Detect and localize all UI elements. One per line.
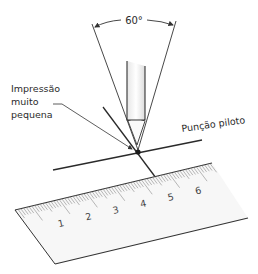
impression-label-line-1: Impressão	[11, 83, 60, 94]
impression-dot	[135, 149, 140, 154]
impression-leader	[53, 104, 132, 149]
angle-arc-left	[95, 20, 121, 27]
pilot-punch	[127, 61, 145, 145]
ruler-body	[15, 163, 248, 264]
impression-label-line-3: pequena	[11, 109, 53, 120]
angle-label: 60°	[125, 15, 143, 26]
punch-label: Punção piloto	[181, 114, 246, 134]
angle-arc-right	[147, 20, 173, 25]
ruler: 123456	[15, 163, 248, 264]
impression-label-line-2: muito	[11, 96, 39, 107]
punch-body	[127, 61, 145, 120]
punch-tip	[128, 121, 145, 145]
punch-diagram: 60° Impressão muito pequena Punção pilot…	[0, 0, 258, 274]
horizontal-layout-line	[53, 140, 202, 170]
